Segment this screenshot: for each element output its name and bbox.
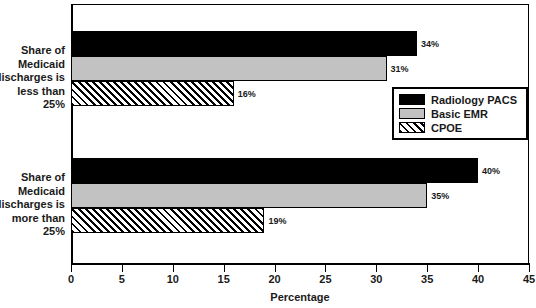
category-label-line: Share of xyxy=(0,171,65,185)
x-axis-tick-label: 35 xyxy=(421,273,433,285)
x-axis-tick-label: 0 xyxy=(68,273,74,285)
bar-radiology-pacs xyxy=(71,158,478,183)
x-axis-tick xyxy=(224,265,225,272)
x-axis-title: Percentage xyxy=(0,291,536,303)
bar-row: 35% xyxy=(71,183,529,208)
legend-item-radiology-pacs: Radiology PACS xyxy=(399,93,521,106)
x-axis-tick-label: 25 xyxy=(319,273,331,285)
x-axis-tick xyxy=(478,265,479,272)
x-axis-tick xyxy=(325,265,326,272)
bar-basic-emr xyxy=(71,183,427,208)
bar-row: 19% xyxy=(71,208,529,233)
category-label-line: more than xyxy=(0,212,65,226)
bar-row: 31% xyxy=(71,56,529,81)
bar-value-label: 34% xyxy=(417,39,439,49)
x-axis-tick-label: 40 xyxy=(472,273,484,285)
legend-swatch-icon xyxy=(399,94,425,105)
bar-value-label: 19% xyxy=(264,216,286,226)
x-axis-tick xyxy=(376,265,377,272)
legend-item-cpoe: CPOE xyxy=(399,121,521,134)
category-label-group-1: Share of Medicaid discharges is more tha… xyxy=(0,171,65,239)
category-label-line: 25% xyxy=(0,98,65,112)
category-label-line: Share of xyxy=(0,44,65,58)
x-axis-tick-label: 10 xyxy=(167,273,179,285)
legend-item-basic-emr: Basic EMR xyxy=(399,107,521,120)
x-axis-tick-label: 45 xyxy=(523,273,535,285)
category-label-line: less than xyxy=(0,85,65,99)
legend-label: Basic EMR xyxy=(431,108,488,120)
bar-group-1: 40%35%19% xyxy=(71,158,529,233)
bar-basic-emr xyxy=(71,56,387,81)
category-label-line: discharges is xyxy=(0,71,65,85)
category-label-line: 25% xyxy=(0,225,65,239)
legend-swatch-icon xyxy=(399,122,425,133)
chart-legend: Radiology PACS Basic EMR CPOE xyxy=(392,87,528,140)
x-axis-tick xyxy=(122,265,123,272)
bar-value-label: 16% xyxy=(234,89,256,99)
x-axis-tick-label: 5 xyxy=(119,273,125,285)
bar-value-label: 35% xyxy=(427,191,449,201)
x-axis-tick xyxy=(427,265,428,272)
bar-row: 40% xyxy=(71,158,529,183)
legend-label: CPOE xyxy=(431,122,462,134)
x-axis-tick xyxy=(275,265,276,272)
bar-radiology-pacs xyxy=(71,31,417,56)
category-label-line: Medicaid xyxy=(0,185,65,199)
category-label-line: Medicaid xyxy=(0,58,65,72)
x-axis-tick xyxy=(529,265,530,272)
legend-swatch-icon xyxy=(399,108,425,119)
bar-value-label: 31% xyxy=(387,64,409,74)
x-axis-tick xyxy=(173,265,174,272)
x-axis-spine xyxy=(71,263,530,265)
x-axis-tick xyxy=(71,265,72,272)
x-axis-tick-label: 15 xyxy=(218,273,230,285)
category-label-line: discharges is xyxy=(0,198,65,212)
bar-cpoe xyxy=(71,81,234,106)
bar-cpoe xyxy=(71,208,264,233)
category-label-group-0: Share of Medicaid discharges is less tha… xyxy=(0,44,65,112)
x-axis-tick-label: 20 xyxy=(268,273,280,285)
legend-label: Radiology PACS xyxy=(431,94,517,106)
bar-chart: Share of Medicaid discharges is less tha… xyxy=(0,0,536,308)
x-axis-tick-label: 30 xyxy=(370,273,382,285)
bar-row: 34% xyxy=(71,31,529,56)
bar-value-label: 40% xyxy=(478,166,500,176)
